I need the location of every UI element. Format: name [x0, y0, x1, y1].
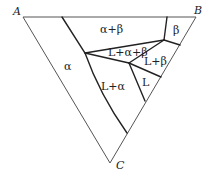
region-label-l-beta: L+β	[144, 55, 167, 68]
region-label-l-alpha: L+α	[101, 80, 126, 93]
region-label-alpha: α	[64, 60, 72, 73]
region-label-l: L	[142, 76, 150, 89]
corner-label-a: A	[12, 5, 21, 18]
boundary-beta-lbeta	[164, 40, 180, 45]
corner-label-c: C	[116, 159, 125, 172]
region-label-alpha-beta: α+β	[100, 23, 123, 36]
corner-label-b: B	[193, 4, 202, 17]
boundary-beta-alphabeta	[164, 17, 167, 40]
region-label-beta: β	[173, 24, 179, 37]
region-label-l-alpha-beta: L+α+β	[108, 46, 148, 59]
phase-diagram: A B C α+β β L+α+β L+β α L L+α	[0, 0, 211, 179]
